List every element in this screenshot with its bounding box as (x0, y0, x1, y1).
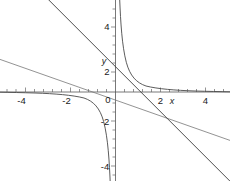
x-axis-label: x (169, 96, 175, 106)
x-tick-label-4: 4 (203, 95, 208, 106)
y-axis-label: y (101, 56, 107, 66)
x-tick-label-zero: 0 (105, 94, 110, 105)
y-tick-label-neg4: -4 (101, 161, 109, 172)
secant-line (0, 59, 230, 140)
graph-figure: -4 -2 0 2 4 4 2 -2 -4 y x (0, 0, 230, 181)
hyperbola-branch-upper (120, 0, 230, 92)
tangent-line (48, 0, 230, 181)
y-tick-label-2: 2 (104, 66, 109, 77)
plot-canvas: -4 -2 0 2 4 4 2 -2 -4 y x (0, 0, 230, 181)
axis-tick-labels: -4 -2 0 2 4 4 2 -2 -4 (17, 21, 208, 172)
x-tick-label-neg4: -4 (17, 95, 25, 106)
y-tick-label-neg2: -2 (101, 116, 109, 127)
x-tick-label-neg2: -2 (62, 95, 70, 106)
x-tick-label-2: 2 (158, 95, 163, 106)
y-tick-label-4: 4 (104, 21, 109, 32)
